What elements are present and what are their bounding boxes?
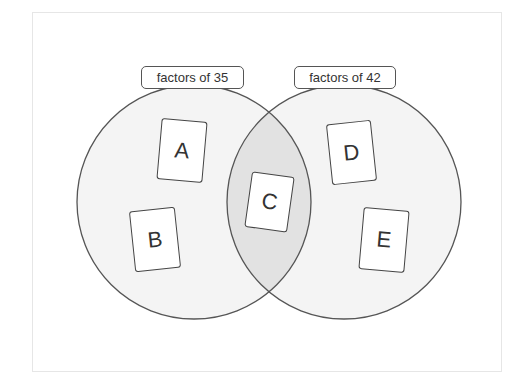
card-e[interactable]: E: [358, 207, 409, 273]
card-d[interactable]: D: [326, 120, 377, 185]
set-label-right: factors of 42: [294, 66, 396, 89]
card-b[interactable]: B: [129, 207, 181, 272]
set-label-left: factors of 35: [141, 66, 244, 89]
card-c[interactable]: C: [244, 171, 294, 232]
card-a[interactable]: A: [156, 118, 207, 183]
